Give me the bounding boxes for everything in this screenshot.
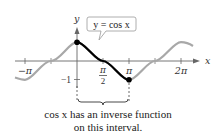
curve-label: y = cos x bbox=[93, 19, 129, 30]
point-pi-neg-one bbox=[126, 77, 132, 83]
tick-label-pi: π bbox=[125, 65, 133, 76]
y-axis-arrow-icon bbox=[75, 27, 80, 34]
tick-label-neg-one: −1 bbox=[61, 75, 71, 85]
caption: cos x has an inverse function on this in… bbox=[0, 108, 216, 134]
interval-brace bbox=[78, 99, 128, 105]
tick-label-neg-pi: −π bbox=[18, 65, 33, 76]
tick-label-half-pi-denominator: 2 bbox=[101, 76, 106, 86]
x-axis-label: x bbox=[205, 55, 211, 66]
tick-label-two-pi: 2π bbox=[174, 65, 188, 76]
tick-label-half-pi-numerator: π bbox=[99, 65, 107, 75]
point-zero-one bbox=[74, 39, 80, 45]
caption-line-2: on this interval. bbox=[0, 121, 216, 134]
caption-line-1: cos x has an inverse function bbox=[0, 108, 216, 121]
y-axis-label: y bbox=[73, 13, 80, 24]
x-axis-arrow-icon bbox=[193, 59, 200, 64]
